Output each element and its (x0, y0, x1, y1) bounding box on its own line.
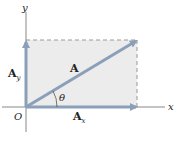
vector-components-diagram: y x O A θ Ay Ax (0, 0, 178, 141)
ax-label: Ax (72, 110, 86, 125)
x-axis-label: x (168, 101, 174, 112)
theta-label: θ (59, 92, 65, 103)
diagram-canvas: y x O A θ Ay Ax (0, 0, 178, 141)
vector-a-label: A (69, 62, 79, 75)
origin-label: O (14, 111, 22, 122)
y-axis-label: y (21, 2, 28, 13)
ay-label: Ay (7, 67, 22, 82)
